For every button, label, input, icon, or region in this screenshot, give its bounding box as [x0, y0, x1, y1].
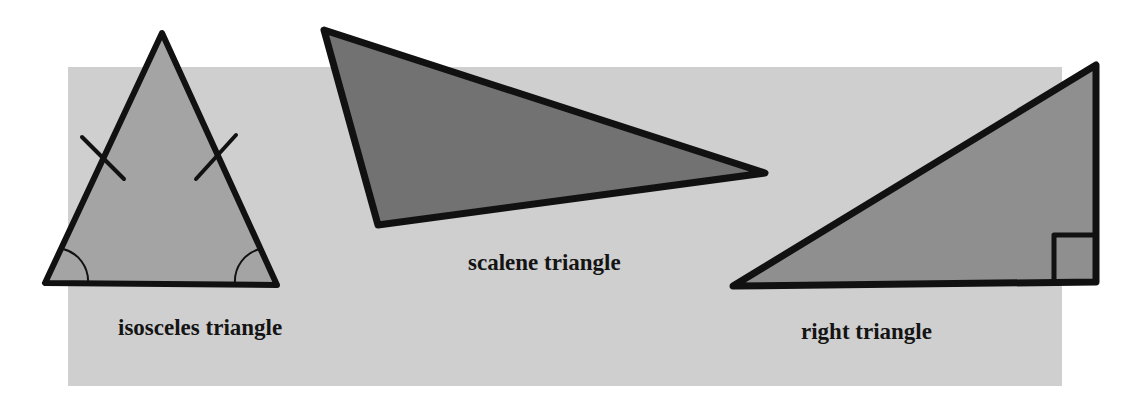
scalene-triangle-label: scalene triangle [468, 250, 621, 275]
right-triangle-label: right triangle [801, 319, 932, 344]
triangle-types-diagram: isosceles triangle scalene triangle righ… [0, 0, 1144, 407]
isosceles-triangle-label: isosceles triangle [118, 315, 282, 340]
